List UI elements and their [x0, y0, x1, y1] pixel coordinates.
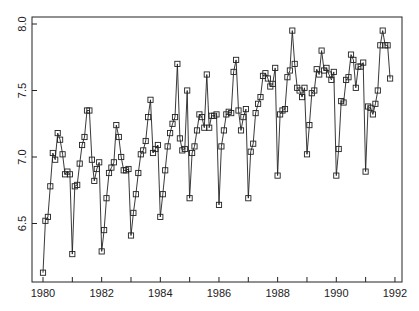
x-tick-label: 1986 — [207, 287, 231, 299]
y-tick-label: 7.0 — [16, 149, 28, 164]
x-tick-label: 1980 — [31, 287, 55, 299]
y-tick-label: 6.5 — [16, 216, 28, 231]
x-tick-label: 1990 — [324, 287, 348, 299]
x-tick-label: 1988 — [265, 287, 289, 299]
x-axis: 1980198219841986198819901992 — [31, 277, 407, 299]
series-markers — [40, 28, 392, 275]
y-tick-label: 8.0 — [16, 16, 28, 31]
x-tick-label: 1992 — [383, 287, 407, 299]
y-axis: 6.57.07.58.0 — [16, 16, 37, 231]
y-tick-label: 7.5 — [16, 83, 28, 98]
line-chart: 1980198219841986198819901992 6.57.07.58.… — [0, 0, 419, 311]
plot-frame — [32, 17, 402, 282]
x-tick-label: 1982 — [89, 287, 113, 299]
x-tick-label: 1984 — [148, 287, 172, 299]
